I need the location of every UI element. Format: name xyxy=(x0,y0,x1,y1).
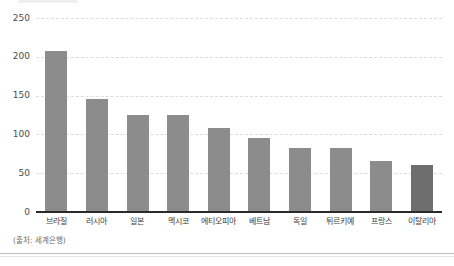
x-label-에티오피아: 에티오피아 xyxy=(198,216,239,228)
x-label-러시아: 러시아 xyxy=(77,216,118,228)
x-label-멕시코: 멕시코 xyxy=(158,216,199,228)
bar-브라질 xyxy=(45,51,67,212)
bar-튀르키예 xyxy=(330,148,352,212)
y-tick-label-100: 100 xyxy=(2,130,30,139)
x-label-독일: 독일 xyxy=(280,216,321,228)
y-tick-label-250: 250 xyxy=(2,14,30,23)
x-label-이탈리아: 이탈리아 xyxy=(401,216,442,228)
y-tick-label-0: 0 xyxy=(2,208,30,217)
top-edge-artifact xyxy=(18,0,78,3)
bar-베트남 xyxy=(248,138,270,212)
bar-독일 xyxy=(289,148,311,212)
bottom-divider xyxy=(0,253,454,254)
x-label-프랑스: 프랑스 xyxy=(361,216,402,228)
y-tick-label-50: 50 xyxy=(2,169,30,178)
x-label-베트남: 베트남 xyxy=(239,216,280,228)
x-label-튀르키예: 튀르키예 xyxy=(320,216,361,228)
x-axis-category-labels: 브라질러시아일본멕시코에티오피아베트남독일튀르키예프랑스이탈리아 xyxy=(36,216,442,230)
bar-일본 xyxy=(127,115,149,212)
bar-러시아 xyxy=(86,99,108,212)
bottom-divider-secondary xyxy=(0,256,454,257)
source-note: (출처: 세계은행) xyxy=(13,236,66,246)
bar-프랑스 xyxy=(370,161,392,212)
x-label-일본: 일본 xyxy=(117,216,158,228)
y-tick-label-200: 200 xyxy=(2,52,30,61)
x-axis-line xyxy=(36,211,442,213)
bar-chart-figure: 050100150200250 브라질러시아일본멕시코에티오피아베트남독일튀르키… xyxy=(0,0,454,266)
bars-group xyxy=(36,18,442,212)
bar-에티오피아 xyxy=(208,128,230,212)
bar-이탈리아 xyxy=(411,165,433,212)
bar-멕시코 xyxy=(167,115,189,212)
y-tick-label-150: 150 xyxy=(2,91,30,100)
x-label-브라질: 브라질 xyxy=(36,216,77,228)
